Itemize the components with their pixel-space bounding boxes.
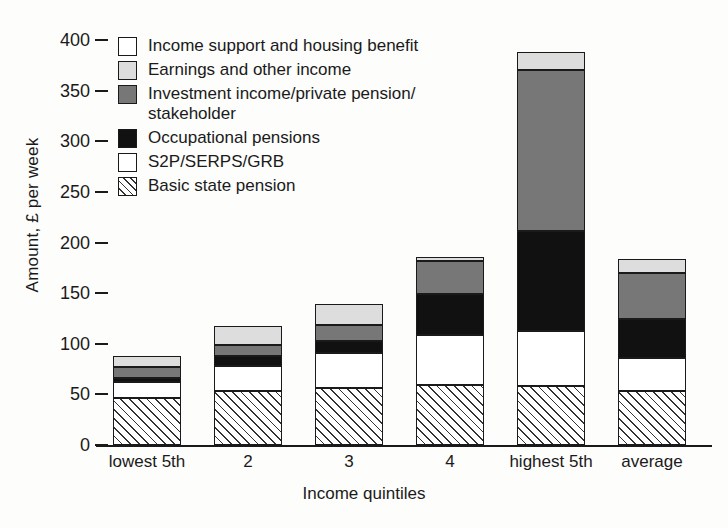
y-axis-tick-label: 0	[80, 436, 90, 454]
y-axis-tick-label: 150	[60, 284, 90, 302]
legend-item-label: S2P/SERPS/GRB	[148, 152, 284, 172]
x-axis-tick-label: 2	[196, 452, 300, 472]
stacked-bar-chart: Amount, £ per week 050100150200250300350…	[0, 0, 728, 528]
legend-item-label: Occupational pensions	[148, 128, 320, 148]
bar-3[interactable]	[315, 304, 383, 445]
bar-segment[interactable]	[416, 261, 484, 294]
bar-segment[interactable]	[214, 326, 282, 345]
legend-swatch-icon	[118, 129, 137, 148]
bar-segment[interactable]	[214, 366, 282, 391]
bar-segment[interactable]	[113, 378, 181, 382]
bar-highest-5th[interactable]	[517, 52, 585, 445]
x-axis-title: Income quintiles	[0, 484, 728, 504]
x-axis-tick-label: lowest 5th	[95, 452, 199, 472]
legend-swatch-icon	[118, 177, 137, 196]
bar-segment[interactable]	[517, 52, 585, 70]
bar-average[interactable]	[618, 259, 686, 445]
legend-item[interactable]: Income support and housing benefit	[118, 36, 518, 56]
bar-segment[interactable]	[517, 386, 585, 445]
y-axis-ticks: 050100150200250300350400	[0, 0, 108, 528]
y-axis-tick: 300	[0, 132, 108, 150]
y-axis-tick-mark	[95, 292, 108, 294]
y-axis-tick: 50	[0, 385, 108, 403]
y-axis-tick: 100	[0, 335, 108, 353]
y-axis-tick-label: 300	[60, 132, 90, 150]
bar-segment[interactable]	[517, 231, 585, 330]
legend-swatch-icon	[118, 37, 137, 56]
x-axis-tick-label: average	[600, 452, 704, 472]
y-axis-tick-label: 250	[60, 183, 90, 201]
y-axis-tick: 200	[0, 234, 108, 252]
bar-segment[interactable]	[416, 294, 484, 335]
legend-item[interactable]: Investment income/private pension/stakeh…	[118, 84, 518, 124]
y-axis-tick: 400	[0, 31, 108, 49]
bar-segment[interactable]	[113, 367, 181, 378]
bar-segment[interactable]	[416, 335, 484, 386]
y-axis-tick-mark	[95, 343, 108, 345]
y-axis-tick-mark	[95, 39, 108, 41]
bar-segment[interactable]	[315, 304, 383, 324]
legend-item-label: Basic state pension	[148, 176, 295, 196]
legend-item[interactable]: Earnings and other income	[118, 60, 518, 80]
bar-segment[interactable]	[416, 385, 484, 445]
x-axis-tick-label: 4	[398, 452, 502, 472]
x-axis-tick-label: 3	[297, 452, 401, 472]
bar-segment[interactable]	[618, 259, 686, 273]
y-axis-tick-mark	[95, 90, 108, 92]
legend-swatch-icon	[118, 61, 137, 80]
bar-segment[interactable]	[214, 345, 282, 356]
x-axis-tick-label: highest 5th	[499, 452, 603, 472]
bar-lowest-5th[interactable]	[113, 356, 181, 445]
bar-segment[interactable]	[618, 391, 686, 445]
legend-item-label: Earnings and other income	[148, 60, 351, 80]
bar-segment[interactable]	[315, 353, 383, 388]
bar-segment[interactable]	[113, 382, 181, 398]
y-axis-tick-label: 50	[70, 385, 90, 403]
legend-swatch-icon	[118, 153, 137, 172]
legend-item[interactable]: S2P/SERPS/GRB	[118, 152, 518, 172]
legend-item-label: Income support and housing benefit	[148, 36, 418, 56]
legend-item[interactable]: Occupational pensions	[118, 128, 518, 148]
bar-segment[interactable]	[315, 341, 383, 353]
y-axis-tick-mark	[95, 140, 108, 142]
x-axis-line	[96, 445, 712, 447]
y-axis-tick-mark	[95, 191, 108, 193]
y-axis-tick-label: 400	[60, 31, 90, 49]
y-axis-tick: 250	[0, 183, 108, 201]
bar-segment[interactable]	[618, 358, 686, 391]
y-axis-tick-label: 200	[60, 234, 90, 252]
y-axis-tick: 0	[0, 436, 108, 454]
bar-segment[interactable]	[113, 356, 181, 367]
legend-swatch-icon	[118, 85, 137, 104]
bar-segment[interactable]	[315, 325, 383, 341]
bar-segment[interactable]	[214, 356, 282, 366]
bar-segment[interactable]	[113, 398, 181, 445]
bar-4[interactable]	[416, 257, 484, 445]
y-axis-tick-mark	[95, 393, 108, 395]
y-axis-tick-label: 350	[60, 82, 90, 100]
bar-segment[interactable]	[315, 388, 383, 445]
bar-segment[interactable]	[214, 391, 282, 445]
bar-segment[interactable]	[618, 319, 686, 357]
chart-legend: Income support and housing benefitEarnin…	[118, 36, 518, 200]
bar-segment[interactable]	[618, 273, 686, 320]
y-axis-tick-label: 100	[60, 335, 90, 353]
bar-segment[interactable]	[517, 331, 585, 387]
legend-item[interactable]: Basic state pension	[118, 176, 518, 196]
y-axis-tick: 350	[0, 82, 108, 100]
y-axis-tick: 150	[0, 284, 108, 302]
y-axis-tick-mark	[95, 242, 108, 244]
bar-segment[interactable]	[517, 70, 585, 231]
bar-2[interactable]	[214, 326, 282, 445]
bar-segment[interactable]	[416, 257, 484, 261]
legend-item-label: Investment income/private pension/stakeh…	[148, 84, 415, 124]
